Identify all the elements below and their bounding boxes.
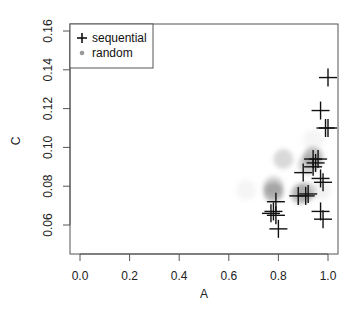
y-tick-label: 0.08 — [41, 174, 55, 198]
y-tick-label: 0.16 — [41, 19, 55, 43]
x-tick-label: 0.6 — [220, 269, 237, 283]
random-point — [303, 130, 323, 150]
y-axis-label: C — [9, 136, 23, 145]
sequential-point — [262, 204, 280, 222]
sequential-point — [264, 202, 282, 220]
legend-label-sequential: sequential — [92, 31, 147, 45]
x-tick-label: 0.0 — [72, 269, 89, 283]
x-axis-label: A — [200, 287, 208, 301]
y-tick-label: 0.10 — [41, 135, 55, 159]
y-axis: 0.060.080.100.120.140.16 — [41, 19, 70, 237]
circle-marker-icon — [80, 51, 85, 56]
sequential-point — [319, 119, 337, 137]
y-tick-label: 0.06 — [41, 213, 55, 237]
legend: sequential random — [70, 24, 153, 68]
random-point — [273, 149, 293, 169]
sequential-point — [269, 220, 287, 238]
random-point — [263, 176, 283, 196]
sequential-point — [312, 102, 330, 120]
sequential-point — [319, 69, 337, 87]
scatter-chart: 0.00.20.40.60.81.0 0.060.080.100.120.140… — [0, 0, 355, 324]
sequential-point — [314, 210, 332, 228]
random-point — [236, 180, 256, 200]
sequential-series — [262, 69, 337, 238]
sequential-point — [267, 206, 285, 224]
y-tick-label: 0.12 — [41, 97, 55, 121]
legend-label-random: random — [92, 46, 133, 60]
x-tick-label: 0.4 — [171, 269, 188, 283]
x-tick-label: 0.8 — [270, 269, 287, 283]
y-tick-label: 0.14 — [41, 58, 55, 82]
x-axis: 0.00.20.40.60.81.0 — [72, 254, 337, 283]
x-tick-label: 0.2 — [121, 269, 138, 283]
sequential-point — [312, 202, 330, 220]
x-tick-label: 1.0 — [320, 269, 337, 283]
